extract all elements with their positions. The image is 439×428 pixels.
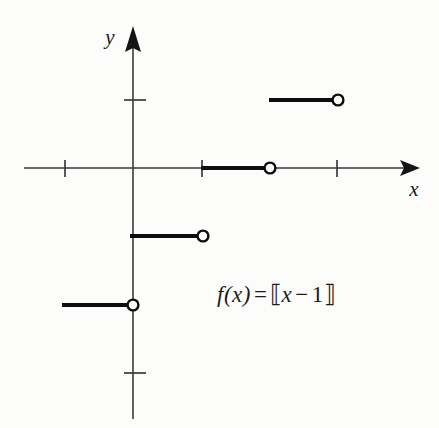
- equation-equals: =: [251, 282, 270, 307]
- equation-bracket-close: ⟧: [324, 281, 335, 307]
- open-endpoint-markers: [128, 95, 344, 311]
- y-axis-label: y: [103, 25, 115, 49]
- axes-group: [24, 26, 420, 419]
- x-axis-label: x: [408, 177, 419, 201]
- equation-bracket-open: ⟦: [270, 281, 281, 307]
- function-equation-label: f(x)=⟦x−1⟧: [217, 280, 335, 308]
- step-function-segments: [62, 100, 338, 305]
- open-circle-x0-y-minus2: [128, 300, 139, 311]
- step-function-figure: y x f(x)=⟦x−1⟧: [0, 0, 439, 428]
- equation-constant: 1: [312, 282, 324, 307]
- open-circle-x1-y-minus1: [198, 231, 209, 242]
- graph-canvas: y x: [0, 0, 439, 428]
- equation-lhs: f(x): [217, 282, 251, 307]
- open-circle-x3-y1: [333, 95, 344, 106]
- equation-variable: x: [282, 282, 293, 307]
- equation-operator: −: [292, 282, 311, 307]
- open-circle-x2-y0: [265, 163, 276, 174]
